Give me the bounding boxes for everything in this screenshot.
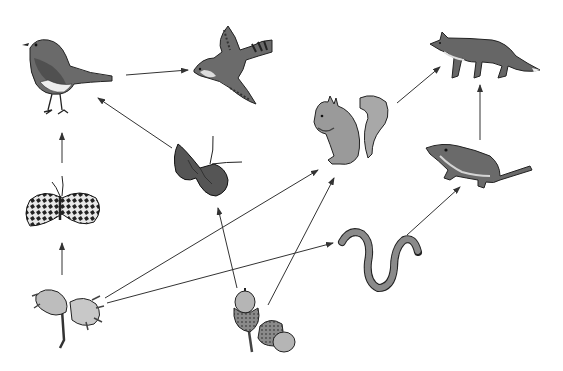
- robin-icon: [22, 40, 112, 114]
- hawk-icon: [194, 26, 272, 104]
- shrew-icon: [426, 144, 532, 188]
- arrow-worm-to-shrew: [407, 187, 460, 235]
- butterfly-icon: [174, 136, 242, 196]
- moth-icon: [26, 176, 100, 226]
- arrow-squirrel-to-fox: [397, 67, 440, 103]
- squirrel-icon: [314, 96, 388, 165]
- arrow-hazel-to-worm: [107, 243, 333, 303]
- hazelnut-icon: [32, 290, 104, 348]
- fox-icon: [430, 32, 540, 78]
- arrow-butterfly-to-robin: [98, 98, 172, 148]
- arrow-robin-to-hawk: [126, 70, 188, 75]
- food-web-diagram: [0, 0, 563, 371]
- acorn-icon: [234, 288, 295, 352]
- food-web-canvas: [0, 0, 563, 371]
- arrow-acorn-to-squirrel: [268, 178, 334, 305]
- earthworm-icon: [342, 232, 418, 288]
- arrow-layer: [62, 67, 480, 305]
